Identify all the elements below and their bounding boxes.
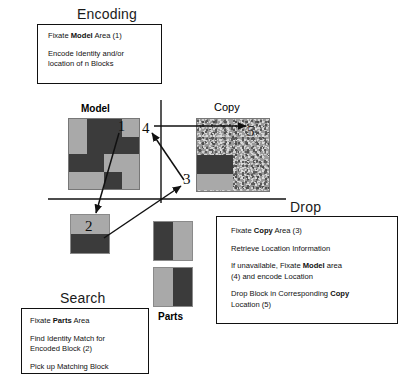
part-block-1-right [173,222,192,260]
search-step-box: Fixate Parts Area Find Identity Match fo… [21,308,149,374]
encoding-step-box: Fixate Model Area (1) Encode Identity an… [37,24,162,84]
model-area-label: Model [81,103,110,114]
search-step-1-bold: Parts [53,316,72,325]
model-cell-10 [104,154,122,172]
drop-step-3-post: area [325,261,342,270]
copy-placed-dark-block [197,155,233,174]
encoding-step-1-pre: Fixate [48,31,71,40]
model-cell-14 [104,172,122,190]
callout-2: 2 [85,219,93,234]
drop-step-4: (4) and encode Location [231,272,389,283]
search-step-4-text: Pick up Matching Block [30,362,109,371]
drop-step-6: Location (5) [231,300,389,311]
drop-step-3-pre: If unavailable, Fixate [231,261,303,270]
drop-step-3: If unavailable, Fixate Model area [231,261,389,272]
encoding-step-1: Fixate Model Area (1) [48,31,153,42]
drop-step-3-bold: Model [303,261,325,270]
drop-step-2: Retrieve Location Information [231,244,389,255]
model-board [68,118,140,190]
drop-step-2-text: Retrieve Location Information [231,244,330,253]
model-cell-8 [69,154,87,172]
search-step-3-text: Encoded Block (2) [30,344,92,353]
part-block-1 [153,221,193,261]
search-step-1-pre: Fixate [30,316,53,325]
search-step-3: Encoded Block (2) [30,344,142,355]
encoding-step-3-text: location of n Blocks [48,59,113,68]
arrow-4-back-to-model [152,133,184,180]
search-step-2-text: Find Identity Match for [30,334,105,343]
model-cell-0 [69,119,87,137]
model-cell-9 [87,154,105,172]
encoding-step-2-text: Encode Identity and/or [48,49,124,58]
drop-step-1-bold: Copy [254,226,273,235]
drop-step-4-text: (4) and encode Location [231,272,313,281]
encoding-heading: Encoding [77,6,137,22]
model-cell-7 [122,137,140,155]
callout-1: 1 [118,120,125,134]
callout-4: 4 [142,121,150,136]
search-heading: Search [60,290,106,306]
drop-step-box: Fixate Copy Area (3) Retrieve Location I… [216,216,398,324]
drop-step-6-text: Location (5) [231,300,271,309]
drop-step-5: Drop Block in Corresponding Copy [231,289,389,300]
model-cell-1 [87,119,105,137]
model-cell-12 [69,172,87,190]
part-block-2-right [173,268,192,306]
callout-5: 5 [247,124,255,139]
encoding-step-2: Encode Identity and/or [48,49,153,60]
model-cell-15 [122,172,140,190]
part-block-2 [153,267,193,307]
diagram-canvas: Encoding Fixate Model Area (1) Encode Id… [0,0,405,381]
copy-board [196,118,270,192]
model-cell-11 [122,154,140,172]
copy-placed-light-block [197,174,233,190]
model-cell-13 [87,172,105,190]
drop-step-1: Fixate Copy Area (3) [231,226,389,237]
held-block-bottom [71,234,109,253]
search-step-4: Pick up Matching Block [30,362,142,373]
callout-3: 3 [183,172,191,187]
parts-area-label: Parts [158,311,183,322]
drop-step-1-post: Area (3) [273,226,302,235]
search-step-1: Fixate Parts Area [30,316,142,327]
copy-area-label: Copy [214,101,240,113]
drop-heading: Drop [290,199,321,215]
encoding-step-1-bold: Model [71,31,93,40]
model-cell-6 [104,137,122,155]
encoding-step-1-post: Area (1) [93,31,122,40]
part-block-2-left [154,268,173,306]
drop-step-5-bold: Copy [330,289,349,298]
encoding-step-3: location of n Blocks [48,59,153,70]
drop-step-1-pre: Fixate [231,226,254,235]
part-block-1-left [154,222,173,260]
drop-step-5-pre: Drop Block in Corresponding [231,289,330,298]
search-step-2: Find Identity Match for [30,334,142,345]
model-cell-5 [87,137,105,155]
search-step-1-post: Area [72,316,90,325]
model-cell-4 [69,137,87,155]
